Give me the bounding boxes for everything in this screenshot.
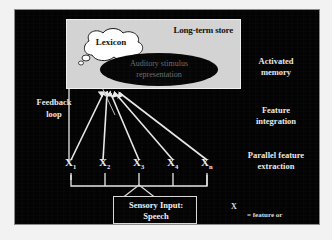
feedback-loop-line1: Feedback [37,97,72,107]
auditory-representation-ellipse: Auditory stimulus representation [100,53,218,86]
activated-memory-line1: Activated [259,56,294,66]
legend-symbol: X [231,202,237,211]
feature-node-x2: X2 [99,156,110,170]
feedback-loop-line2: loop [46,109,62,119]
activated-memory-line2: memory [261,67,291,77]
auditory-representation-label: Auditory stimulus representation [100,58,218,80]
activated-memory-label: Activated memory [239,56,313,78]
feature-node-x1: X1 [65,156,76,170]
parallel-feature-extraction-line2: extraction [258,161,295,171]
lexicon-label: Lexicon [87,37,135,47]
feature-node-x4: X4 [167,156,178,170]
legend-text: = feature or feature combinations [247,202,310,225]
long-term-store-panel: Long-term store Lexicon Auditory stimulu… [66,19,241,89]
sensory-input-line2: Speech [143,211,169,221]
figure-canvas: Long-term store Lexicon Auditory stimulu… [0,0,332,240]
feature-node-xn: Xn [201,156,213,170]
parallel-feature-extraction-label: Parallel feature extraction [234,150,318,172]
long-term-store-title: Long-term store [173,25,233,35]
sensory-input-label: Sensory Input: Speech [114,200,198,222]
feedback-loop-label: Feedback loop [23,96,85,120]
legend-line1: = feature or [247,211,282,219]
sensory-input-line1: Sensory Input: [129,200,183,210]
feature-integration-label: Feature integration [239,105,313,127]
sensory-input-box: Sensory Input: Speech [113,196,197,224]
parallel-feature-extraction-line1: Parallel feature [248,150,304,160]
feature-line-2 [103,94,107,160]
feature-integration-line2: integration [256,116,296,126]
feature-node-x3: X3 [133,156,144,170]
ellipse-label-line2: representation [136,70,181,79]
feature-integration-line1: Feature [262,105,290,115]
diagram-frame: Long-term store Lexicon Auditory stimulu… [14,9,320,225]
ellipse-label-line1: Auditory stimulus [130,59,188,68]
